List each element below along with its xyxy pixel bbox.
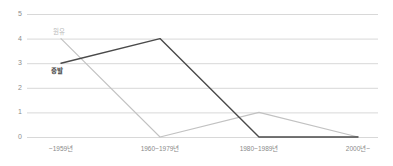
x-axis-tick-label: 1980~1989년	[219, 144, 299, 153]
x-axis-tick-label: 2000년~	[318, 144, 393, 153]
line-chart: 543210 ~1959년1960~1979년1980~1989년2000년~ …	[0, 0, 393, 166]
x-axis-tick-label: 1960~1979년	[120, 144, 200, 153]
series-label-steam: 증발	[51, 67, 63, 75]
chart-plot-area	[0, 0, 393, 166]
y-axis-tick-label: 4	[6, 35, 22, 43]
y-axis-tick-label: 3	[6, 59, 22, 67]
x-axis-tick-label: ~1959년	[21, 144, 101, 153]
y-axis-tick-label: 5	[6, 10, 22, 18]
y-axis-tick-label: 0	[6, 133, 22, 141]
y-axis-tick-label: 2	[6, 84, 22, 92]
series-label-crude: 원유	[53, 28, 65, 36]
gridlines-group	[27, 15, 378, 138]
y-axis-tick-label: 1	[6, 108, 22, 116]
